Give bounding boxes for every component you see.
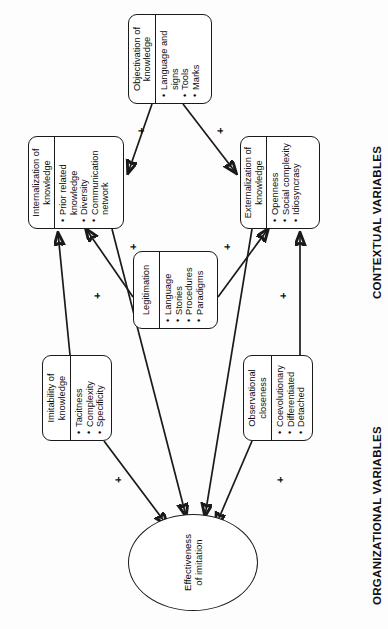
- sign-imitability-to-effectiveness: +: [113, 477, 124, 483]
- sign-legitimation-to-externalization: +: [222, 244, 233, 250]
- node-imitability-of-knowledge-title: Imitability of knowledge: [43, 356, 71, 440]
- list-item: Tacitness: [74, 360, 85, 434]
- node-internalization-of-knowledge-items: Prior related knowledge Diversity Commun…: [55, 137, 123, 228]
- list-item: Openness: [270, 141, 281, 222]
- section-heading-organizational: ORGANIZATIONAL VARIABLES: [371, 426, 383, 605]
- list-item: Communication network: [90, 141, 111, 222]
- node-internalization-of-knowledge[interactable]: Internalization of knowledge Prior relat…: [28, 136, 124, 229]
- node-legitimation[interactable]: Legitimation Language Stories Procedures…: [133, 251, 218, 329]
- list-item: Language and signs: [159, 19, 180, 97]
- sign-objectivation-to-internalization: +: [136, 128, 147, 134]
- diagram-rotation-wrapper: CONTEXTUAL VARIABLES ORGANIZATIONAL VARI…: [0, 0, 388, 629]
- list-item: Stories: [174, 256, 185, 322]
- node-objectivation-of-knowledge-items: Language and signs Tools Marks: [156, 15, 211, 103]
- node-objectivation-of-knowledge-title: Objectivation of knowledge: [129, 15, 156, 103]
- link-observational-to-effectiveness: [216, 441, 252, 525]
- node-legitimation-items: Language Stories Procedures Paradigms: [160, 252, 217, 328]
- list-item: Idiosyncrasy: [291, 141, 302, 222]
- section-heading-contextual: CONTEXTUAL VARIABLES: [371, 146, 383, 299]
- list-item: Social complexity: [281, 141, 292, 222]
- list-item: Diversity: [79, 141, 90, 222]
- node-externalization-of-knowledge-items: Openness Social complexity Idiosyncrasy: [267, 137, 319, 228]
- sign-observational-to-externalization: +: [278, 293, 289, 299]
- node-effectiveness-line1: Effectiveness: [182, 534, 193, 591]
- diagram-canvas: CONTEXTUAL VARIABLES ORGANIZATIONAL VARI…: [0, 0, 388, 629]
- list-item: Paradigms: [195, 256, 206, 322]
- node-effectiveness-of-imitation[interactable]: Effectiveness of imitation: [128, 514, 258, 611]
- node-effectiveness-label: Effectiveness of imitation: [182, 534, 205, 591]
- link-imitability-to-effectiveness: [104, 441, 167, 525]
- node-externalization-of-knowledge[interactable]: Externalization of knowledge Openness So…: [240, 136, 320, 229]
- sign-observational-to-effectiveness: +: [275, 477, 286, 483]
- node-objectivation-of-knowledge[interactable]: Objectivation of knowledge Language and …: [128, 14, 212, 104]
- node-legitimation-title: Legitimation: [134, 252, 160, 328]
- link-legitimation-to-internalization: [86, 229, 133, 297]
- list-item: Specificity: [95, 360, 106, 434]
- sign-objectivation-to-externalization: +: [215, 128, 226, 134]
- node-internalization-of-knowledge-title: Internalization of knowledge: [29, 137, 55, 228]
- node-externalization-of-knowledge-title: Externalization of knowledge: [241, 137, 267, 228]
- link-legitimation-to-externalization: [218, 229, 268, 297]
- link-objectivation-to-internalization: [128, 104, 152, 173]
- list-item: Language: [163, 256, 174, 322]
- node-effectiveness-line2: of imitation: [193, 539, 204, 585]
- link-imitability-to-internalization: [58, 233, 70, 355]
- list-item: Differentiated: [286, 360, 297, 434]
- list-item: Marks: [191, 19, 202, 97]
- sign-legitimation-to-internalization: +: [128, 244, 139, 250]
- list-item: Procedures: [184, 256, 195, 322]
- list-item: Detached: [296, 360, 307, 434]
- node-imitability-of-knowledge-items: Tacitness Complexity Specificity: [71, 356, 111, 440]
- node-observational-closeness-title: Observational closeness: [244, 356, 272, 440]
- list-item: Coevolutionary: [275, 360, 286, 434]
- list-item: Complexity: [85, 360, 96, 434]
- list-item: Tools: [180, 19, 191, 97]
- node-observational-closeness-items: Coevolutionary Differentiated Detached: [272, 356, 312, 440]
- link-objectivation-to-externalization: [183, 104, 236, 173]
- sign-imitability-to-internalization: +: [92, 293, 103, 299]
- node-observational-closeness[interactable]: Observational closeness Coevolutionary D…: [243, 355, 313, 441]
- node-imitability-of-knowledge[interactable]: Imitability of knowledge Tacitness Compl…: [42, 355, 112, 441]
- list-item: Prior related knowledge: [58, 141, 79, 222]
